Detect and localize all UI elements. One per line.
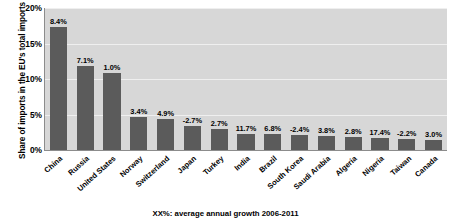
y-tick-label: 10% xyxy=(16,74,42,84)
bar-value-label: 6.8% xyxy=(264,124,281,133)
category-slot: Switzerland xyxy=(152,152,179,208)
category-label: India xyxy=(233,154,252,173)
bar-series: 8.4%7.1%1.0%3.4%4.9%-2.7%2.7%11.7%6.8%-2… xyxy=(45,8,447,150)
bar-slot: 11.7% xyxy=(233,8,260,150)
bar xyxy=(318,136,335,150)
bar xyxy=(291,135,308,150)
bar-slot: 4.9% xyxy=(152,8,179,150)
bar-value-label: 11.7% xyxy=(236,124,257,133)
bar-slot: -2.2% xyxy=(393,8,420,150)
category-slot: Nigeria xyxy=(367,152,394,208)
category-slot: Algeria xyxy=(340,152,367,208)
bar xyxy=(398,139,415,150)
bar xyxy=(345,137,362,150)
bar-value-label: -2.4% xyxy=(290,125,309,134)
bar-slot: 2.8% xyxy=(340,8,367,150)
bar-chart: Share of imports in the EU's total impor… xyxy=(0,0,451,219)
category-slot: United States xyxy=(99,152,126,208)
category-label: China xyxy=(43,154,65,175)
bar-value-label: 3.4% xyxy=(130,107,147,116)
category-slot: India xyxy=(233,152,260,208)
bar-slot: 17.4% xyxy=(367,8,394,150)
bar xyxy=(371,138,388,150)
category-slot: Turkey xyxy=(206,152,233,208)
bar xyxy=(184,126,201,150)
category-slot: Taiwan xyxy=(393,152,420,208)
y-tick-label: 15% xyxy=(16,39,42,49)
bar xyxy=(130,117,147,150)
y-tick-label: 5% xyxy=(16,110,42,120)
x-axis-line xyxy=(44,150,447,151)
category-slot: Canada xyxy=(420,152,447,208)
bar-slot: 1.0% xyxy=(99,8,126,150)
bar-value-label: 4.9% xyxy=(157,109,174,118)
category-label: Brazil xyxy=(257,154,278,175)
bar-slot: 6.8% xyxy=(259,8,286,150)
bar-value-label: 7.1% xyxy=(77,56,94,65)
bar-slot: 8.4% xyxy=(45,8,72,150)
bar-value-label: 8.4% xyxy=(50,17,67,26)
chart-annotation: XX%: average annual growth 2006-2011 xyxy=(0,209,451,218)
bar xyxy=(77,66,94,150)
bar xyxy=(264,134,281,150)
y-axis-tick-labels: 0%5%10%15%20% xyxy=(16,0,42,155)
bar-value-label: 17.4% xyxy=(369,128,390,137)
bar xyxy=(237,134,254,150)
bar-slot: 2.7% xyxy=(206,8,233,150)
bar-value-label: 2.8% xyxy=(345,127,362,136)
category-slot: Japan xyxy=(179,152,206,208)
category-slot: Saudi Arabia xyxy=(313,152,340,208)
bar-value-label: 1.0% xyxy=(104,63,121,72)
category-label: Japan xyxy=(176,154,198,175)
bar-value-label: 3.8% xyxy=(318,126,335,135)
bar-slot: 3.8% xyxy=(313,8,340,150)
bar-value-label: -2.7% xyxy=(183,116,202,125)
bar-slot: -2.4% xyxy=(286,8,313,150)
category-slot: China xyxy=(45,152,72,208)
bar-slot: 3.0% xyxy=(420,8,447,150)
bar-slot: -2.7% xyxy=(179,8,206,150)
bar xyxy=(50,27,67,150)
bar xyxy=(425,140,442,150)
x-axis-category-labels: ChinaRussiaUnited StatesNorwaySwitzerlan… xyxy=(45,152,447,208)
bar-value-label: 3.0% xyxy=(425,130,442,139)
y-tick-label: 0% xyxy=(16,145,42,155)
bar xyxy=(157,119,174,150)
bar-value-label: -2.2% xyxy=(397,129,416,138)
bar-slot: 3.4% xyxy=(125,8,152,150)
y-tick-label: 20% xyxy=(16,3,42,13)
bar xyxy=(211,129,228,150)
bar xyxy=(103,73,120,150)
bar-slot: 7.1% xyxy=(72,8,99,150)
bar-value-label: 2.7% xyxy=(211,119,228,128)
